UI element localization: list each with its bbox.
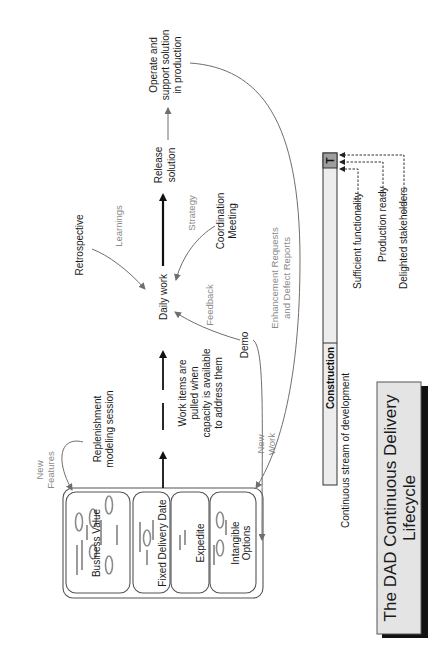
lane-label-fixed-delivery-date: Fixed Delivery Date [157,499,168,587]
svg-text:solution: solution [166,148,177,182]
daily-work-label: Daily work [158,273,169,320]
svg-text:and Defect Reports: and Defect Reports [281,237,292,319]
svg-text:Coordination: Coordination [215,193,226,250]
phase-label: Construction [325,347,336,409]
replenishment-arrow [62,441,83,490]
svg-text:in production: in production [172,36,183,93]
milestone-arrow-3 [340,155,404,213]
milestone-production-ready: Production ready [377,186,388,262]
svg-text:Meeting: Meeting [227,203,238,239]
strategy-arrow [176,226,215,280]
coordination-label: Coordination Meeting [215,193,238,250]
svg-text:Replenishment: Replenishment [92,395,103,462]
svg-text:Release: Release [153,146,164,183]
learnings-label: Learnings [113,205,124,247]
demo-label: Demo [239,331,250,358]
pull-note: Work items are pulled when capacity is a… [177,348,224,437]
construction-bar [323,153,337,485]
lane-label-business-value: Business Value [91,508,102,577]
svg-text:New: New [34,460,45,479]
operate-label: Operate and support solution in producti… [148,30,183,101]
svg-text:capacity is available: capacity is available [201,348,212,437]
lane-label-options: Options [241,526,252,560]
svg-text:pulled when: pulled when [189,366,200,419]
dad-lifecycle-diagram: The DAD Continuous Delivery Lifecycle T … [0,0,445,653]
svg-text:New: New [255,434,266,453]
release-label: Release solution [153,146,177,183]
title-line-2: Lifecycle [400,475,419,541]
svg-text:support solution: support solution [160,30,171,101]
title-line-1: The DAD Continuous Delivery [381,394,400,621]
svg-text:Enhancement Requests: Enhancement Requests [269,227,280,329]
svg-text:to address them: to address them [213,357,224,429]
strategy-label: Strategy [186,195,197,231]
replenishment-label: Replenishment modeling session [92,390,115,467]
milestone-sufficient-functionality: Sufficient functionality [352,192,363,289]
title-box: The DAD Continuous Delivery Lifecycle [377,382,428,638]
feedback-label: Feedback [204,284,215,326]
svg-text:Work items are: Work items are [177,359,188,426]
learnings-arrow [92,249,145,289]
svg-text:Operate and: Operate and [148,37,159,93]
svg-text:Work: Work [266,433,277,455]
enhancement-label: Enhancement Requests and Defect Reports [269,227,292,329]
svg-text:modeling session: modeling session [104,390,115,467]
lane-label-intangible: Intangible [230,521,241,565]
transition-label: T [325,157,336,163]
svg-text:Features: Features [45,451,56,489]
backlog: Business Value Fixed Delivery Date Exped… [63,488,263,598]
retrospective-label: Retrospective [74,214,85,276]
lane-label-expedite: Expedite [195,523,206,562]
phase-description: Continuous stream of development [340,373,351,528]
new-features-label: New Features [34,451,56,489]
